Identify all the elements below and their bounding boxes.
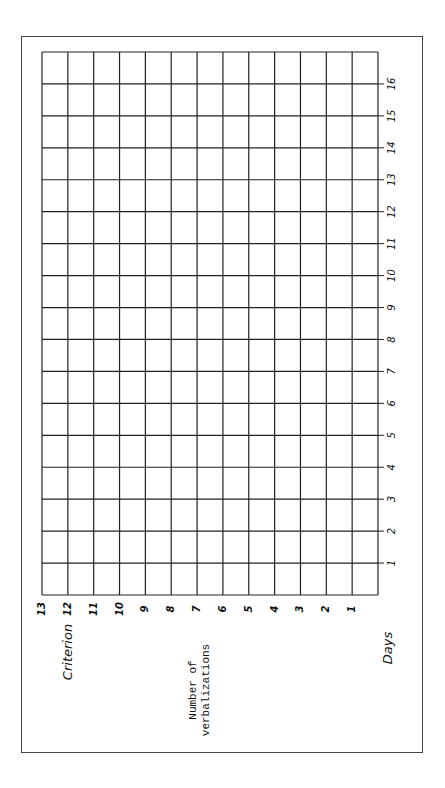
x-axis-label: Days — [380, 632, 395, 665]
x-tick-label: 12 — [386, 205, 397, 218]
y-tick-label: 1 — [346, 606, 357, 613]
x-tick-label: 7 — [386, 368, 397, 375]
x-tick-label: 5 — [386, 432, 397, 438]
criterion-label: Criterion — [60, 624, 75, 680]
y-tick-label: 11 — [88, 602, 99, 616]
x-tick-label: 8 — [386, 336, 397, 342]
x-tick-label: 2 — [386, 528, 397, 534]
y-axis-ticks: 12345678910111213 — [36, 602, 357, 616]
y-tick-label: 5 — [243, 605, 254, 612]
y-tick-label: 2 — [320, 605, 331, 612]
x-axis-ticks: 12345678910111213141516 — [378, 78, 397, 567]
x-tick-label: 15 — [386, 110, 397, 123]
x-tick-label: 6 — [386, 400, 397, 406]
x-tick-label: 3 — [386, 496, 397, 502]
y-axis-label-line1: Number of — [187, 660, 199, 719]
y-tick-label: 9 — [139, 605, 150, 612]
x-tick-label: 1 — [386, 560, 397, 566]
y-tick-label: 7 — [191, 605, 202, 612]
x-tick-label: 9 — [386, 304, 397, 310]
y-tick-label: 3 — [294, 605, 305, 612]
y-tick-label: 4 — [269, 605, 280, 613]
x-tick-label: 10 — [386, 269, 397, 282]
y-tick-label: 10 — [114, 602, 125, 616]
y-tick-label: 13 — [36, 602, 47, 616]
y-axis-label-line2: verbalizations — [200, 644, 212, 736]
y-tick-label: 12 — [62, 602, 73, 616]
x-tick-label: 13 — [386, 173, 397, 186]
x-tick-label: 14 — [386, 141, 397, 154]
x-tick-label: 11 — [386, 237, 397, 250]
x-tick-label: 4 — [386, 464, 397, 470]
chart-area: 12345678910111213141516 1234567891011121… — [0, 0, 445, 788]
grid — [42, 52, 378, 595]
y-tick-label: 8 — [165, 605, 176, 612]
x-tick-label: 16 — [386, 78, 397, 91]
y-tick-label: 6 — [217, 605, 228, 612]
